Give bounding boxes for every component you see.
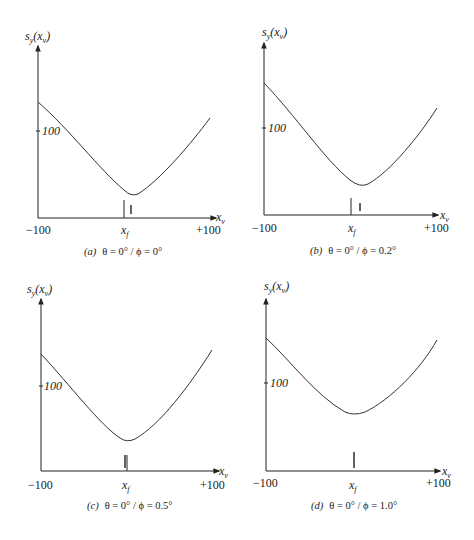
x-max-label: +100	[424, 221, 449, 235]
panel-d: 100 sy(xv) xv −100 +100 xf (d)θ = 0° / ϕ…	[253, 279, 451, 512]
panel-caption: (c)θ = 0° / ϕ = 0.5°	[87, 500, 173, 512]
xf-label: xf	[348, 478, 358, 494]
y-axis-label: sy(xv)	[262, 25, 287, 41]
x-min-label: −100	[253, 476, 278, 490]
x-max-label: +100	[196, 223, 221, 237]
x-min-label: −100	[28, 478, 53, 492]
y-tick-label: 100	[268, 121, 286, 135]
x-max-label: +100	[426, 476, 451, 490]
panel-caption: (b)θ = 0° / ϕ = 0.2°	[310, 245, 396, 257]
xf-label: xf	[120, 223, 130, 239]
x-min-label: −100	[252, 221, 277, 235]
y-axis-label: sy(xv)	[264, 279, 289, 295]
figure-canvas: 100 sy(xv) xv −100 +100 xf (a)θ = 0° / ϕ…	[0, 0, 474, 540]
panel-caption: (d)θ = 0° / ϕ = 1.0°	[311, 500, 397, 512]
y-tick-label: 100	[270, 376, 288, 390]
curve	[38, 102, 210, 195]
panel-a: 100 sy(xv) xv −100 +100 xf (a)θ = 0° / ϕ…	[25, 29, 225, 258]
panel-b: 100 sy(xv) xv −100 +100 xf (b)θ = 0° / ϕ…	[252, 25, 449, 257]
curve	[266, 338, 437, 414]
xf-label: xf	[347, 221, 357, 237]
panel-caption: (a)θ = 0° / ϕ = 0°	[84, 246, 162, 258]
curve	[264, 83, 437, 185]
y-tick-label: 100	[44, 379, 62, 393]
x-min-label: −100	[26, 223, 51, 237]
xf-label: xf	[121, 478, 131, 494]
curve	[41, 350, 212, 441]
panel-c: 100 sy(xv) xv −100 +100 xf (c)θ = 0° / ϕ…	[27, 282, 228, 512]
y-tick-label: 100	[42, 124, 60, 138]
y-axis-label: sy(xv)	[25, 29, 50, 45]
x-max-label: +100	[200, 478, 225, 492]
y-axis-label: sy(xv)	[27, 282, 52, 298]
